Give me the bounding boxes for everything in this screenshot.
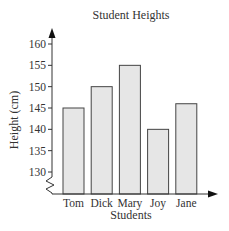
- x-tick-label: Jane: [176, 197, 196, 209]
- y-tick-label: 135: [29, 145, 47, 157]
- bar-tom: [63, 108, 84, 194]
- x-axis-label: Students: [110, 208, 152, 222]
- y-ticks-group: 130135140145150155160: [29, 38, 52, 178]
- y-axis-label: Height (cm): [7, 91, 21, 149]
- bar-dick: [91, 87, 112, 194]
- y-tick-label: 140: [29, 123, 47, 135]
- chart-title: Student Heights: [93, 8, 170, 22]
- axis-break-icon: [46, 177, 54, 194]
- bars-group: [63, 65, 197, 194]
- bar-mary: [119, 65, 140, 194]
- x-axis-arrow-icon: [208, 191, 218, 198]
- chart-canvas: Student Heights Height (cm) Students 130…: [0, 0, 229, 231]
- y-tick-label: 145: [29, 102, 47, 114]
- y-axis-arrow-icon: [49, 28, 56, 38]
- x-tick-label: Joy: [150, 197, 166, 210]
- x-tick-label: Mary: [117, 197, 142, 210]
- x-tick-label: Dick: [91, 197, 114, 209]
- bar-joy: [148, 129, 169, 194]
- y-tick-label: 160: [29, 38, 47, 50]
- y-tick-label: 155: [29, 59, 47, 71]
- x-tick-label: Tom: [63, 197, 84, 209]
- y-tick-label: 130: [29, 166, 47, 178]
- bar-jane: [176, 104, 197, 194]
- y-tick-label: 150: [29, 81, 47, 93]
- x-ticks-group: TomDickMaryJoyJane: [63, 197, 196, 210]
- bar-chart: Student Heights Height (cm) Students 130…: [0, 0, 229, 231]
